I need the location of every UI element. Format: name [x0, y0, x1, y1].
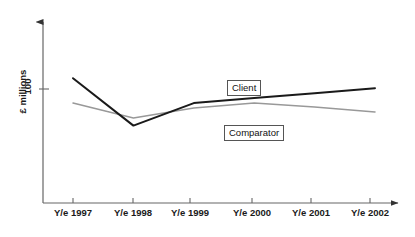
chart-plot-area: [0, 0, 415, 237]
series-label-client: Client: [227, 80, 261, 96]
x-axis-label-1998: Y/e 1998: [114, 207, 152, 218]
line-chart: £ millions 100 Y/e 1997 Y/e 1998 Y/e 199…: [0, 0, 415, 237]
x-axis-label-2002: Y/e 2002: [351, 207, 389, 218]
series-line-client: [73, 78, 375, 125]
x-axis-label-1997: Y/e 1997: [54, 207, 92, 218]
x-axis-label-1999: Y/e 1999: [171, 207, 209, 218]
series-label-comparator: Comparator: [224, 125, 284, 141]
x-axis-label-2000: Y/e 2000: [233, 207, 271, 218]
x-axis-label-2001: Y/e 2001: [292, 207, 330, 218]
y-axis-tick-label-100: 100: [22, 74, 33, 100]
series-line-comparator: [73, 103, 375, 118]
